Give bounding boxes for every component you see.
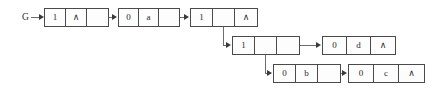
node-a: 0a	[118, 8, 180, 27]
node-sublist-2-tag-cell: 1	[233, 37, 255, 54]
node-sublist-2: 1	[232, 36, 300, 55]
node-sublist-1-link-cell: ∧	[235, 9, 257, 26]
arrowhead-sublist2-to-b	[267, 70, 272, 76]
node-d-data-cell: d	[347, 37, 371, 54]
node-c-link-cell: ∧	[399, 65, 424, 82]
node-c-tag-cell: 0	[349, 65, 374, 82]
node-b-data-cell: b	[296, 65, 318, 82]
arrowhead-a-to-sublist1	[184, 14, 189, 20]
node-sublist-2-data-cell	[255, 37, 277, 54]
node-sublist-1-data-cell	[213, 9, 235, 26]
node-sublist-2-link-cell	[277, 37, 299, 54]
node-a-data-cell: a	[139, 9, 159, 26]
node-d-link-cell: ∧	[371, 37, 395, 54]
node-b: 0b	[273, 64, 341, 83]
node-head: 1∧	[44, 8, 109, 27]
node-sublist-1-tag-cell: 1	[191, 9, 213, 26]
arrowhead-b-to-c	[342, 70, 347, 76]
node-head-link-cell	[87, 9, 108, 26]
node-d: 0d∧	[322, 36, 396, 55]
node-c: 0c∧	[348, 64, 425, 83]
arrowhead-sublist1-to-sublist2	[226, 42, 231, 48]
node-sublist-1: 1∧	[190, 8, 258, 27]
node-b-tag-cell: 0	[274, 65, 296, 82]
root-pointer-label: G	[22, 13, 29, 23]
node-head-data-cell: ∧	[66, 9, 87, 26]
arrowhead-sublist2-to-d	[316, 42, 321, 48]
node-d-tag-cell: 0	[323, 37, 347, 54]
node-a-tag-cell: 0	[119, 9, 139, 26]
node-a-link-cell	[159, 9, 179, 26]
node-c-data-cell: c	[374, 65, 399, 82]
node-head-tag-cell: 1	[45, 9, 66, 26]
node-b-link-cell	[318, 65, 340, 82]
arrowhead-head-to-a	[112, 14, 117, 20]
generalized-list-diagram: G 1∧0a1∧10d∧0b0c∧	[0, 0, 434, 92]
